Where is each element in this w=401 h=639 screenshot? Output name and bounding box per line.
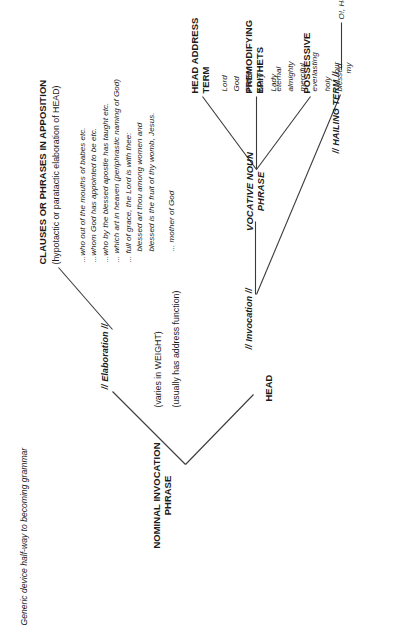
apposition-example-list: ...who out of the mouths of babes etc. .… [76,78,177,262]
head-address-term-line1: HEAD ADDRESS [188,17,199,93]
column-header-premodifying-epithets: PREMODIFYING EPITHETS [242,19,264,93]
vnp-label-line1: VOCATIVE NOUN [243,139,254,243]
node-apposition-subheader: (hypotactic or paratactic elaboration of… [50,85,60,264]
column-header-possessive: POSSESSIVE [300,32,311,93]
apposition-example: ...whom God has appointed to be etc. [87,78,98,262]
apposition-example: ... which art in heaven (periphrastic na… [110,78,121,262]
node-apposition-header: CLAUSES OR PHRASES IN APPOSITION [36,79,47,264]
node-vocative-noun-phrase: VOCATIVE NOUN PHRASE [243,139,265,243]
node-elaboration: // Elaboration // [99,323,110,389]
connector-elaboration-to-apposition [58,267,112,329]
list-item: eternal [272,52,284,91]
apposition-example: ...who by the blessed apostle has taught… [99,78,110,262]
head-address-term-line2: TERM [199,17,210,93]
node-nominal-invocation-phrase: NOMINAL INVOCATION PHRASE [150,425,172,565]
root-note-address-function: (usually has address function) [170,290,180,407]
node-hailing-term-label: // HAILING TERM // [330,71,341,153]
column-header-head-address-term: HEAD ADDRESS TERM [188,17,210,93]
list-item: almighty [284,52,296,91]
diagram-title: Generic device half-way to becoming gram… [18,447,28,625]
list-item: my [342,61,354,73]
root-label-line1: NOMINAL INVOCATION [150,425,161,565]
connector-root-to-head [185,394,253,464]
diagram-canvas: Generic device half-way to becoming gram… [0,0,401,639]
list-item: God [230,68,242,91]
hailing-term-examples: O!, Hail ! [335,0,346,19]
apposition-example: ...who out of the mouths of babes etc. [76,78,87,262]
apposition-example: ... mother of God [165,78,176,262]
list-item: Lord [218,68,230,91]
root-label-line2: PHRASE [161,425,172,565]
apposition-example: blessed is the fruit of thy womb, Jesus. [145,78,156,262]
vnp-label-line2: PHRASE [254,139,265,243]
connector-invocation-to-hailing [256,94,340,294]
root-note-weight: (varies in WEIGHT) [152,331,162,407]
diagram-page: Generic device half-way to becoming gram… [0,0,401,639]
premodifying-epithets-line1: PREMODIFYING [242,19,253,93]
premodifying-epithets-line2: EPITHETS [253,19,264,93]
node-head: HEAD [262,374,273,401]
possessive-line1: POSSESSIVE [300,32,311,93]
apposition-example: ... full of grace, the Lord is with thee… [122,78,133,262]
apposition-example: blessed art thou among women and [133,78,144,262]
node-invocation: // Invocation // [243,288,254,349]
